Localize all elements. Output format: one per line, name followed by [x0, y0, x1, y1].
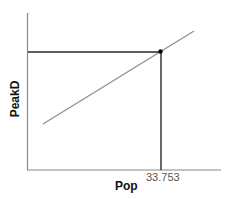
fit-line	[43, 31, 194, 124]
plot-area	[0, 0, 234, 199]
highlight-point	[158, 49, 162, 53]
chart: 33.753 Pop PeakD	[0, 0, 234, 199]
x-tick-label: 33.753	[146, 171, 180, 183]
x-axis-label: Pop	[115, 179, 138, 193]
y-axis-label: PeakD	[8, 74, 22, 124]
